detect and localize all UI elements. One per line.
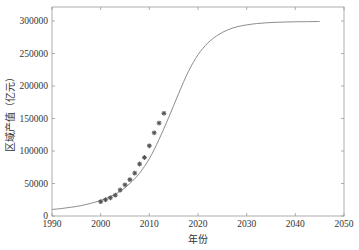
axis-ticks (52, 7, 344, 216)
y-tick-label: 50000 (24, 179, 48, 189)
y-tick-label: 100000 (20, 146, 49, 156)
data-point (152, 130, 157, 135)
x-tick-label: 2020 (189, 219, 208, 229)
data-point (123, 182, 128, 187)
data-point (108, 195, 113, 200)
data-point (118, 188, 123, 193)
data-point (137, 162, 142, 167)
x-tick-label: 2030 (237, 219, 256, 229)
chart: 1990200020102020203020402050050000100000… (0, 0, 359, 250)
data-point (142, 155, 147, 160)
data-point (132, 171, 137, 176)
y-tick-label: 200000 (20, 81, 49, 91)
y-tick-label: 150000 (20, 114, 49, 124)
y-tick-label: 250000 (20, 49, 49, 59)
y-axis-title: 区域产值（亿元） (4, 72, 16, 152)
data-point (157, 121, 162, 126)
x-tick-label: 2000 (91, 219, 110, 229)
y-tick-label: 300000 (20, 16, 49, 26)
data-point (127, 177, 132, 182)
x-axis-title: 年份 (188, 233, 208, 245)
x-tick-label: 2040 (286, 219, 305, 229)
plot-frame (52, 7, 344, 216)
x-tick-label: 2050 (335, 219, 354, 229)
tick-labels: 1990200020102020203020402050050000100000… (20, 16, 354, 229)
y-tick-label: 0 (43, 211, 48, 221)
data-point (103, 197, 108, 202)
fitted-curve (52, 22, 320, 210)
x-tick-label: 2010 (140, 219, 159, 229)
data-point (113, 193, 118, 198)
data-point (162, 111, 167, 116)
data-point (147, 143, 152, 148)
data-markers (98, 111, 166, 204)
data-point (98, 199, 103, 204)
